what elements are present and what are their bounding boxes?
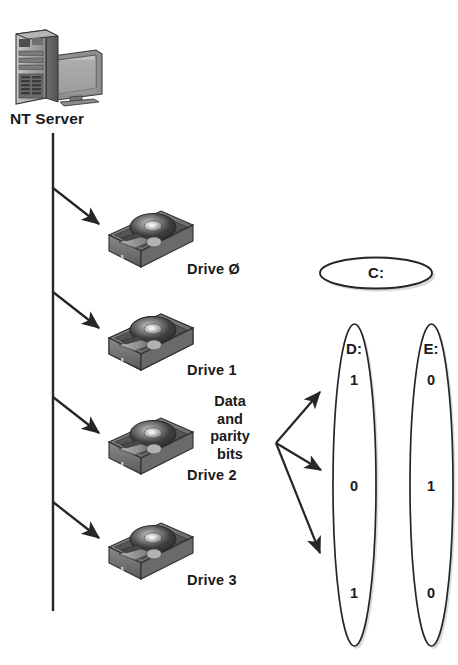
volume-d-bit-2: 1 bbox=[334, 585, 374, 601]
volume-d-label: D: bbox=[334, 340, 374, 357]
volume-e-bit-2: 0 bbox=[411, 585, 451, 601]
volume-d-bit-0: 1 bbox=[334, 372, 374, 388]
volume-e-label: E: bbox=[411, 340, 451, 357]
volume-e-bit-1: 1 bbox=[411, 478, 451, 494]
volume-ellipses-layer bbox=[0, 0, 458, 665]
volume-d-bit-1: 0 bbox=[334, 478, 374, 494]
volume-e-bit-0: 0 bbox=[411, 372, 451, 388]
raid-diagram-canvas: NT Server bbox=[0, 0, 458, 665]
volume-c-label: C: bbox=[356, 264, 396, 281]
